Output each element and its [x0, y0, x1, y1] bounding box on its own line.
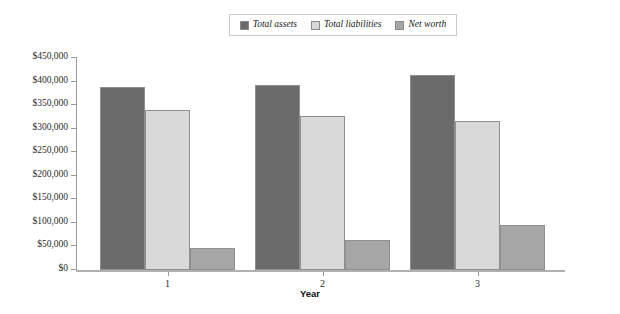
legend-swatch-icon — [311, 21, 320, 30]
x-tick-label: 3 — [475, 279, 480, 289]
y-tick-mark — [71, 81, 76, 82]
y-tick-label: $350,000 — [32, 99, 68, 109]
y-axis-line — [76, 57, 77, 271]
y-tick-mark — [71, 222, 76, 223]
plot-area: $0$50,000$100,000$150,000$200,000$250,00… — [76, 57, 565, 271]
x-tick-mark — [323, 272, 324, 276]
x-axis-title: Year — [0, 289, 620, 299]
y-tick-mark — [71, 269, 76, 270]
legend-label: Total liabilities — [324, 20, 381, 30]
legend-label: Net worth — [408, 20, 446, 30]
bar — [500, 225, 545, 270]
y-tick-label: $50,000 — [37, 241, 68, 251]
bar — [455, 121, 500, 270]
legend-swatch-icon — [395, 21, 404, 30]
bar — [255, 85, 300, 270]
y-tick-label: $100,000 — [32, 217, 68, 227]
y-tick-mark — [71, 175, 76, 176]
y-tick-label: $450,000 — [32, 52, 68, 62]
y-tick-mark — [71, 104, 76, 105]
y-tick-mark — [71, 245, 76, 246]
bar — [345, 240, 390, 270]
bar — [410, 75, 455, 271]
y-tick-mark — [71, 128, 76, 129]
y-tick-label: $400,000 — [32, 76, 68, 86]
x-tick-label: 1 — [165, 279, 170, 289]
y-tick-label: $0 — [59, 264, 69, 274]
legend-item[interactable]: Total liabilities — [311, 20, 381, 30]
y-tick-mark — [71, 198, 76, 199]
bar-chart: Total assetsTotal liabilitiesNet worth $… — [0, 0, 620, 314]
x-axis-line — [76, 270, 565, 272]
x-tick-label: 2 — [320, 279, 325, 289]
y-tick-label: $300,000 — [32, 123, 68, 133]
legend-label: Total assets — [253, 20, 297, 30]
legend-swatch-icon — [240, 21, 249, 30]
bar — [145, 110, 190, 270]
y-tick-label: $150,000 — [32, 194, 68, 204]
x-tick-mark — [478, 272, 479, 276]
y-tick-label: $250,000 — [32, 146, 68, 156]
x-tick-mark — [168, 272, 169, 276]
y-tick-label: $200,000 — [32, 170, 68, 180]
legend-item[interactable]: Net worth — [395, 20, 446, 30]
bar — [300, 116, 345, 270]
y-tick-mark — [71, 57, 76, 58]
legend-item[interactable]: Total assets — [240, 20, 297, 30]
chart-legend: Total assetsTotal liabilitiesNet worth — [229, 14, 457, 36]
y-tick-mark — [71, 151, 76, 152]
bar — [190, 248, 235, 270]
bar — [100, 87, 145, 270]
